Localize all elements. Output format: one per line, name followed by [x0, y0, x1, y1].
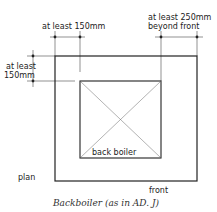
plan-label: plan [18, 173, 35, 182]
front-label: front [149, 186, 168, 195]
dimension-label-front-line1: at least 250mm [148, 13, 211, 22]
hearth-outline [55, 56, 197, 181]
dimension-label-front-line2: beyond front [148, 22, 199, 31]
back-boiler-label: back boiler [92, 148, 136, 157]
dimension-label-back-line2: 150mm [4, 71, 35, 80]
dimension-label-back-line1: at least [6, 62, 36, 71]
backboiler-diagram: at least 150mm at least 250mm beyond fro… [0, 0, 217, 212]
figure-caption: Backboiler (as in AD. J) [53, 198, 159, 208]
dimension-label-side: at least 150mm [42, 22, 105, 31]
